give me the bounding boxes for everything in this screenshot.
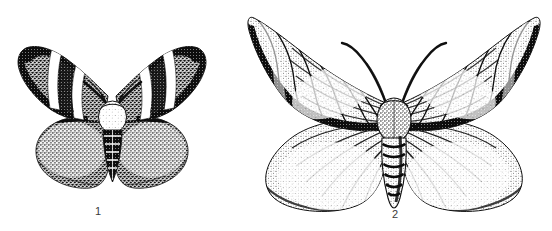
moth-plate-drawing: [0, 0, 552, 231]
illustration-plate: 1 2: [0, 0, 552, 231]
figure-2-label: 2: [383, 208, 407, 220]
figure-1-label: 1: [86, 205, 110, 217]
